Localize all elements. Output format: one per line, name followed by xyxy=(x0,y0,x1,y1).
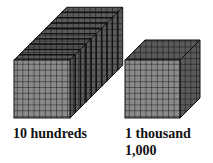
thousand-label: 1 thousand xyxy=(125,126,191,142)
hundreds-label: 10 hundreds xyxy=(13,126,87,142)
hundreds-flats-stack xyxy=(14,7,123,118)
thousand-cube xyxy=(125,40,200,118)
hundred-flat xyxy=(14,60,70,118)
thousand-value: 1,000 xyxy=(125,143,157,159)
